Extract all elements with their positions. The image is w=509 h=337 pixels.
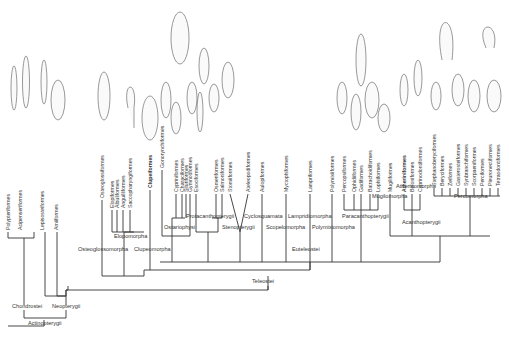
clade-label-euteleostei: Euteleostei bbox=[292, 246, 320, 252]
fish-gonorynchiformes-icon bbox=[161, 82, 171, 118]
leaf-label: Anguilliformes bbox=[120, 175, 126, 208]
clade-label-teleostei: Teleostei bbox=[252, 278, 274, 284]
fish-percopsiformes-icon bbox=[337, 82, 347, 114]
leaf-label: Saccopharyngiformes bbox=[127, 157, 133, 208]
leaf-label: Zeiformes bbox=[447, 163, 453, 186]
leaf-label: Myctophiformes bbox=[283, 155, 289, 192]
clade-label-percomorpha: Percomorpha bbox=[454, 193, 488, 199]
clade-label-paracanthopterygii: Paracanthopterygii bbox=[342, 213, 389, 219]
leaf-label: Beryciformes bbox=[439, 155, 445, 186]
fish-illustrations bbox=[11, 12, 501, 140]
clade-label-neopterygii: Neopterygii bbox=[52, 303, 80, 309]
fish-salmoniformes-icon bbox=[222, 62, 234, 98]
clade-label-stenopterygii: Stenopterygii bbox=[222, 224, 255, 230]
fish-acipenseriformes-icon bbox=[23, 56, 30, 108]
leaf-label: Polymixiiformes bbox=[329, 155, 335, 192]
fish-gasterosteiformes-icon bbox=[440, 23, 453, 61]
leaf-label: Stephanoberyciformes bbox=[431, 134, 437, 186]
fish-tetraodontiformes-icon bbox=[487, 80, 501, 112]
clade-label-clupeomorpha: Clupeomorpha bbox=[134, 246, 172, 252]
clade-label-protacanthopterygii: Protacanthopterygii bbox=[186, 213, 234, 219]
clade-label-scopelomorpha: Scopelomorpha bbox=[266, 224, 306, 230]
leaf-label: Aulopiformes bbox=[259, 161, 265, 192]
clade-labels: Chondrostei Neopterygii Actinopterygii T… bbox=[12, 183, 488, 326]
leaf-label: Gadiformes bbox=[358, 165, 364, 192]
leaf-label: Esociformes bbox=[193, 163, 199, 192]
leaf-label: Lepisosteiformes bbox=[39, 190, 45, 230]
leaf-label: Ateleopodiformes bbox=[245, 151, 251, 192]
fish-perciformes-icon bbox=[468, 80, 480, 112]
fish-pleuronectiformes-icon bbox=[483, 27, 495, 48]
leaf-label: Gasterosteiformes bbox=[455, 143, 461, 186]
leaf-label: Gonorynchiformes bbox=[159, 125, 165, 168]
leaf-label: Ophidiiformes bbox=[351, 160, 357, 192]
fish-batrachoidiformes-icon bbox=[365, 82, 379, 118]
fish-clupeiformes-icon bbox=[142, 96, 158, 140]
clade-label-lampridiomorpha: Lampridiomorpha bbox=[288, 213, 332, 219]
fish-stephanoberyciformes-icon bbox=[431, 82, 441, 110]
fish-scorpaeniformes-icon bbox=[452, 74, 464, 106]
leaf-label: Tetraodontiformes bbox=[495, 144, 501, 186]
fish-osmeriformes-icon bbox=[209, 84, 219, 112]
leaf-label: Mugiliformes bbox=[387, 162, 393, 192]
fish-characiformes-icon bbox=[171, 102, 181, 134]
leaf-label: Lampriformes bbox=[307, 160, 313, 192]
fish-gadiformes-icon bbox=[356, 34, 366, 86]
fish-gymnotiformes-icon bbox=[197, 92, 203, 132]
fish-atheriniformes-icon bbox=[400, 74, 408, 106]
clade-label-polymixiomorpha: Polymixiomorpha bbox=[312, 224, 356, 230]
clade-label-elopomorpha: Elopomorpha bbox=[114, 233, 148, 239]
leaf-label: Osteoglossiformes bbox=[99, 155, 105, 198]
clade-label-acanthopterygii: Acanthopterygii bbox=[402, 219, 441, 225]
clade-label-osteoglossomorpha: Osteoglossomorpha bbox=[78, 246, 129, 252]
fish-siluriformes-icon bbox=[187, 82, 197, 114]
clade-label-actinopterygii: Actinopterygii bbox=[28, 320, 62, 326]
leaf-label: Clupeiformes bbox=[147, 155, 153, 188]
fish-ophidiiformes-icon bbox=[351, 94, 361, 130]
leaf-label: Stomiiformes bbox=[227, 161, 233, 192]
leaf-label: Acipenseriformes bbox=[17, 190, 23, 230]
cladogram: Polypteriformes Acipenseriformes Lepisos… bbox=[0, 0, 509, 337]
fish-osteoglossiformes-icon bbox=[98, 72, 110, 120]
fish-lepisosteiformes-icon bbox=[41, 60, 47, 104]
leaf-label: Polypteriformes bbox=[5, 194, 11, 230]
leaf-label: Pleuronectiformes bbox=[487, 144, 493, 186]
leaf-label: Lophiiformes bbox=[375, 162, 381, 192]
fish-lophiiformes-icon bbox=[378, 104, 390, 132]
leaf-label: Perciformes bbox=[479, 158, 485, 186]
clade-label-ostariophysi: Ostariophysi bbox=[164, 224, 195, 230]
clade-label-chondrostei: Chondrostei bbox=[12, 303, 42, 309]
fish-esociformes-icon bbox=[199, 48, 209, 84]
fish-anguilliformes-icon bbox=[127, 87, 135, 128]
leaf-label: Percopsiformes bbox=[341, 156, 347, 192]
fish-beloniformes-icon bbox=[414, 60, 422, 96]
leaf-label: Scorpaeniformes bbox=[471, 146, 477, 186]
clade-label-atherinomorpha: Atherinomorpha bbox=[396, 183, 437, 189]
leaf-label: Synbranchiformes bbox=[463, 144, 469, 186]
leaf-label: Salmoniformes bbox=[219, 157, 225, 192]
leaf-label: Batrachoidiformes bbox=[367, 150, 373, 192]
leaf-label: Amiiformes bbox=[53, 204, 59, 230]
fish-polypteriformes-icon bbox=[11, 66, 17, 110]
clade-label-mugilomorpha: Mugilomorpha bbox=[372, 193, 408, 199]
clade-label-cyclosquamata: Cyclosquamata bbox=[244, 213, 283, 219]
fish-amiiformes-icon bbox=[51, 80, 65, 120]
fish-cypriniformes-icon bbox=[171, 12, 189, 64]
